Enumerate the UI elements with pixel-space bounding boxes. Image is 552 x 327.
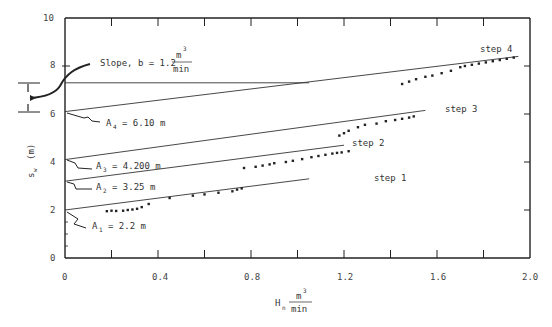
svg-text:m: m bbox=[176, 50, 181, 60]
svg-text:s: s bbox=[26, 173, 36, 178]
y-tick-4: 4 bbox=[50, 157, 55, 167]
x-tick-1.2: 1.2 bbox=[337, 272, 353, 282]
svg-text:n: n bbox=[282, 304, 286, 311]
svg-text:= 2.2 m: = 2.2 m bbox=[108, 221, 146, 231]
svg-text:(m): (m) bbox=[26, 144, 36, 160]
x-tick-labels: 0 0.4 0.8 1.2 1.6 2.0 bbox=[62, 272, 538, 282]
svg-text:A: A bbox=[92, 221, 98, 231]
svg-text:3: 3 bbox=[303, 287, 307, 294]
svg-text:m: m bbox=[296, 291, 301, 301]
x-tick-1.6: 1.6 bbox=[430, 272, 446, 282]
svg-text:A: A bbox=[96, 161, 102, 171]
svg-text:Slope, b = 1.2: Slope, b = 1.2 bbox=[100, 58, 176, 68]
x-axis-label: H n m 3 min bbox=[275, 287, 312, 314]
svg-text:min: min bbox=[173, 64, 189, 74]
drawdown-chart: 0 2 4 6 8 10 0 0.4 0.8 1.2 1.6 2.0 H n m… bbox=[0, 0, 552, 327]
x-tick-2.0: 2.0 bbox=[522, 272, 538, 282]
svg-text:min: min bbox=[291, 304, 307, 314]
svg-text:1: 1 bbox=[99, 226, 103, 233]
svg-text:= 3.25 m: = 3.25 m bbox=[112, 182, 155, 192]
slope-annotation: Slope, b = 1.2 m 3 min bbox=[18, 45, 192, 112]
step-3-label: step 3 bbox=[445, 104, 478, 114]
y-tick-2: 2 bbox=[50, 205, 55, 215]
svg-text:H: H bbox=[275, 298, 280, 308]
svg-text:3: 3 bbox=[103, 166, 107, 173]
a4-annotation: A 4 = 6.10 m bbox=[67, 113, 165, 130]
y-axis-label: s w (m) bbox=[26, 144, 38, 178]
y-tick-labels: 0 2 4 6 8 10 bbox=[43, 13, 55, 263]
step-1-label: step 1 bbox=[374, 173, 407, 183]
y-tick-6: 6 bbox=[50, 109, 55, 119]
svg-text:A: A bbox=[96, 182, 102, 192]
svg-text:w: w bbox=[31, 168, 38, 172]
svg-text:3: 3 bbox=[183, 45, 187, 52]
svg-text:2: 2 bbox=[103, 187, 107, 194]
a1-annotation: A 1 = 2.2 m bbox=[67, 212, 146, 233]
x-tick-0.8: 0.8 bbox=[244, 272, 260, 282]
x-tick-0: 0 bbox=[62, 272, 67, 282]
data-points bbox=[106, 56, 515, 212]
y-tick-10: 10 bbox=[43, 13, 54, 23]
svg-text:A: A bbox=[106, 118, 112, 128]
step-2-label: step 2 bbox=[352, 138, 385, 148]
svg-text:= 4.200 m: = 4.200 m bbox=[112, 161, 161, 171]
svg-text:4: 4 bbox=[113, 123, 117, 130]
svg-text:= 6.10 m: = 6.10 m bbox=[122, 118, 165, 128]
a2-annotation: A 2 = 3.25 m bbox=[67, 182, 155, 194]
x-tick-0.4: 0.4 bbox=[152, 272, 168, 282]
step-4-label: step 4 bbox=[480, 44, 513, 54]
y-tick-8: 8 bbox=[50, 60, 55, 70]
y-tick-0: 0 bbox=[50, 253, 55, 263]
